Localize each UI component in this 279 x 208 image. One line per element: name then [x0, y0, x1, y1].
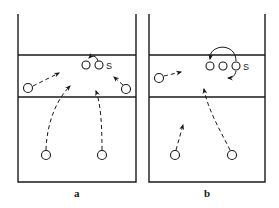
player-b-back-left: [171, 151, 180, 160]
move-b-back-right: [204, 89, 230, 150]
panel-label-a: a: [74, 187, 80, 199]
player-a-left: [24, 84, 33, 93]
move-a-back-right: [96, 91, 102, 150]
move-a-right: [114, 77, 123, 85]
move-a-back-left: [46, 86, 70, 150]
setter-move-b: [228, 71, 236, 78]
move-a-left: [33, 73, 59, 86]
player-b-back-right: [228, 151, 237, 160]
volleyball-diagram: S a S b: [0, 0, 279, 208]
setter-label-b: S: [243, 62, 249, 72]
move-b-back-left: [176, 125, 183, 150]
player-a-right: [122, 85, 131, 94]
court-outline-b: [149, 14, 265, 182]
panel-b: S b: [149, 14, 265, 199]
court-outline-a: [18, 14, 136, 182]
setter-b: [232, 62, 240, 70]
player-a-back-left: [42, 151, 51, 160]
player-b-front-2: [219, 62, 227, 70]
move-b-left: [164, 72, 181, 76]
player-b-front-1: [206, 62, 214, 70]
player-a-back-right: [98, 151, 107, 160]
panel-a: S a: [18, 14, 136, 199]
player-a-front-left-center: [82, 61, 90, 69]
setter-a: [95, 61, 103, 69]
panel-label-b: b: [204, 187, 210, 199]
setter-label-a: S: [106, 61, 112, 71]
player-b-left: [155, 74, 164, 83]
arc-move-b: [210, 47, 236, 61]
setter-move-a: [89, 56, 98, 61]
